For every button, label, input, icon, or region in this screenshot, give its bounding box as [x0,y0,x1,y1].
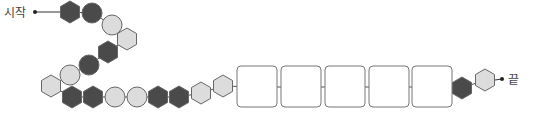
dark-hexagon-unit [453,77,472,99]
end-dot [500,77,504,81]
light-circle-unit [60,65,80,85]
start-label: 시작 [4,6,26,20]
dark-circle-unit [79,55,99,75]
light-circle-unit [102,15,122,35]
light-circle-unit [127,87,147,107]
monomer-chain-diagram: 시작 끝 [0,0,539,115]
dark-hexagon-unit [63,86,82,108]
light-hexagon-unit [42,75,61,97]
empty-box-unit [412,66,452,107]
dark-hexagon-unit [170,86,189,108]
light-circle-unit [105,87,125,107]
light-hexagon-unit [476,69,495,91]
dark-hexagon-unit [99,41,118,63]
empty-box-unit [237,66,277,107]
light-hexagon-unit [192,82,211,104]
light-hexagon-unit [118,28,137,50]
dark-hexagon-unit [84,86,103,108]
dark-hexagon-unit [149,86,168,108]
end-label: 끝 [508,73,519,87]
light-hexagon-unit [214,75,233,97]
empty-box-unit [281,66,321,107]
chain-nodes [42,1,495,108]
start-dot [33,10,37,14]
empty-box-unit [369,66,409,107]
dark-circle-unit [82,3,102,23]
dark-hexagon-unit [61,1,80,23]
empty-box-unit [325,66,365,107]
